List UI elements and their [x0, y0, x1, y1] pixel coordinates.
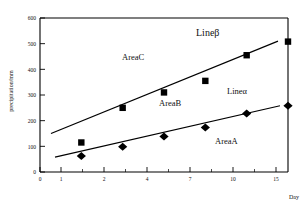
data-point-alpha — [159, 133, 168, 141]
chart-figure: 600 500 400 300 200 100 0 — [0, 0, 301, 202]
x-tick-label: 15 — [273, 176, 279, 182]
y-tick-label: 400 — [28, 67, 37, 73]
data-point-beta — [119, 105, 125, 111]
data-point-alpha — [283, 102, 292, 110]
annotation-area-a: AreaA — [215, 136, 238, 146]
x-axis-ticks — [40, 167, 276, 172]
y-axis-ticks — [40, 18, 45, 172]
x-axis-tick-labels: 0 1 2 4 7 10 15 — [39, 176, 279, 182]
x-axis-title: Day — [289, 194, 299, 200]
data-point-alpha — [201, 124, 210, 132]
series-beta-markers — [78, 38, 291, 145]
y-tick-label: 500 — [28, 41, 37, 47]
x-tick-label: 0 — [39, 176, 42, 182]
x-tick-label: 2 — [103, 176, 106, 182]
y-axis-tick-labels: 600 500 400 300 200 100 0 — [28, 15, 37, 175]
annotation-line-beta: Lineβ — [196, 27, 219, 38]
x-tick-label: 10 — [230, 176, 236, 182]
y-tick-label: 100 — [28, 144, 37, 150]
chart-plot-area: 600 500 400 300 200 100 0 — [0, 0, 301, 202]
annotation-line-alpha: Lineα — [227, 86, 247, 96]
y-tick-label: 300 — [28, 92, 37, 98]
data-point-beta — [202, 78, 208, 84]
data-point-beta — [161, 89, 167, 95]
x-tick-label: 4 — [146, 176, 149, 182]
annotation-area-c: AreaC — [122, 52, 144, 62]
y-tick-label: 600 — [28, 15, 37, 21]
data-point-beta — [78, 139, 84, 145]
annotation-area-b: AreaB — [159, 98, 181, 108]
data-point-alpha — [242, 109, 251, 117]
data-point-beta — [285, 38, 291, 44]
x-tick-label: 1 — [60, 176, 63, 182]
y-tick-label: 0 — [33, 169, 36, 175]
y-axis-title: precipitation/mm — [8, 52, 14, 130]
data-point-beta — [243, 52, 249, 58]
data-point-alpha — [77, 152, 86, 160]
data-point-alpha — [118, 143, 127, 151]
x-tick-label: 7 — [189, 176, 192, 182]
y-tick-label: 200 — [28, 118, 37, 124]
